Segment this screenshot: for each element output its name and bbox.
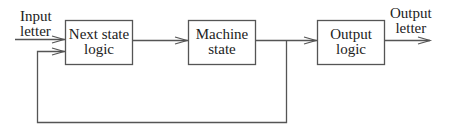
diagram-graphics bbox=[0, 0, 450, 132]
output-label: Output letter bbox=[390, 6, 432, 36]
output-label-line1: Output bbox=[390, 6, 432, 21]
input-label-line1: Input bbox=[20, 9, 52, 24]
output-logic-line1: Output bbox=[317, 27, 385, 42]
machine-state-line2: state bbox=[188, 42, 256, 57]
output-logic-line2: logic bbox=[317, 42, 385, 57]
next-state-logic-line2: logic bbox=[65, 42, 133, 57]
state-machine-diagram: Input letter Next state logic Machine st… bbox=[0, 0, 450, 132]
output-label-line2: letter bbox=[390, 21, 432, 36]
machine-state-line1: Machine bbox=[188, 27, 256, 42]
machine-state-label: Machine state bbox=[188, 27, 256, 57]
input-label: Input letter bbox=[20, 9, 52, 39]
next-state-logic-line1: Next state bbox=[65, 27, 133, 42]
input-label-line2: letter bbox=[20, 24, 52, 39]
next-state-logic-label: Next state logic bbox=[65, 27, 133, 57]
output-logic-label: Output logic bbox=[317, 27, 385, 57]
